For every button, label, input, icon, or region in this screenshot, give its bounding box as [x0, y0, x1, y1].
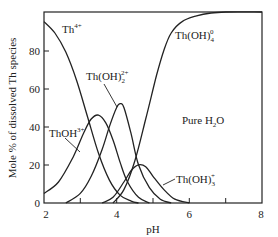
x-tick-2: 2: [43, 208, 49, 220]
y-tick-80: 80: [29, 45, 41, 57]
y-tick-labels: 0 20 40 60 80: [29, 45, 41, 209]
speciation-chart: 0 20 40 60 80 2 4 6 8 pH Mole % of disso…: [0, 0, 278, 237]
label-thoh3: ThOH3+: [49, 126, 85, 139]
x-tick-8: 8: [258, 208, 264, 220]
label-th4: Th4+: [62, 22, 82, 35]
plot-frame: [44, 12, 262, 203]
y-tick-20: 20: [29, 159, 41, 171]
x-tick-6: 6: [187, 208, 193, 220]
leader-thoh3p: [163, 179, 175, 185]
curves: [44, 12, 262, 203]
leader-lines: [65, 84, 175, 185]
x-tick-4: 4: [114, 208, 120, 220]
label-thoh3p: Th(OH)3+: [176, 172, 215, 188]
y-tick-0: 0: [35, 197, 41, 209]
label-pure-water: Pure H2O: [182, 114, 224, 129]
y-axis-label: Mole % of dissolved Th species: [6, 38, 18, 179]
x-tick-labels: 2 4 6 8: [43, 208, 264, 220]
y-tick-60: 60: [29, 83, 41, 95]
x-axis-label: pH: [146, 223, 160, 235]
x-axis: [80, 198, 225, 203]
y-tick-40: 40: [29, 121, 41, 133]
leader-thoh3: [65, 138, 80, 152]
leader-thoh2: [104, 84, 117, 107]
label-thoh4: Th(OH)40: [175, 28, 214, 44]
y-axis: [44, 51, 49, 165]
curve-series-2: [66, 104, 171, 203]
label-thoh2: Th(OH)22+: [86, 69, 128, 85]
